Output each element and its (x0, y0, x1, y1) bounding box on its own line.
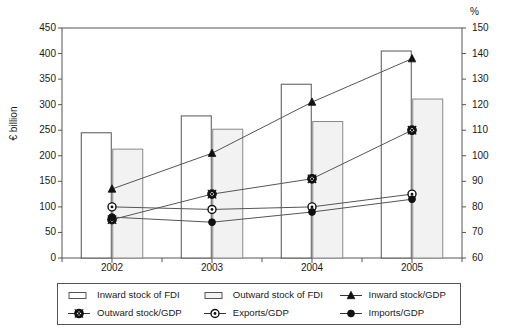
line-open-circle-icon (202, 308, 228, 319)
marker-filled-circle (409, 196, 416, 203)
bar-inward-stock-of-fdi-2003 (181, 116, 211, 258)
legend-label: Inward stock of FDI (97, 290, 180, 300)
line-filled-circle-icon (338, 308, 364, 319)
line-inward-stock-gdp (112, 59, 412, 189)
marker-filled-circle (209, 219, 216, 226)
marker-filled-circle (347, 310, 354, 317)
line-layer (108, 54, 416, 225)
chart-legend: Inward stock of FDIOutward stock of FDII… (57, 283, 461, 325)
legend-item-inward-stock-of-fdi[interactable]: Inward stock of FDI (66, 290, 202, 301)
legend-label: Imports/GDP (369, 308, 424, 318)
legend-item-outward-stock-gdp[interactable]: Outward stock/GDP (66, 308, 202, 319)
legend-item-imports-gdp[interactable]: Imports/GDP (338, 308, 454, 319)
legend-label: Inward stock/GDP (369, 290, 446, 300)
legend-item-outward-stock-of-fdi[interactable]: Outward stock of FDI (202, 290, 338, 301)
line-imports-gdp (112, 199, 412, 222)
bar-layer (81, 51, 443, 258)
line-crossed-circle-icon (66, 308, 92, 319)
legend-label: Outward stock of FDI (233, 290, 323, 300)
bar-inward-stock-of-fdi-2005 (381, 51, 411, 258)
bar-grey-icon (202, 290, 228, 301)
line-exports-gdp (112, 194, 412, 209)
bar-outward-stock-of-fdi-2004 (313, 122, 343, 258)
bar-inward-stock-of-fdi-2002 (81, 133, 111, 258)
marker-filled-circle (109, 214, 116, 221)
line-triangle-icon (338, 290, 364, 301)
marker-filled-circle (309, 209, 316, 216)
legend-label: Outward stock/GDP (97, 308, 182, 318)
legend-label: Exports/GDP (233, 308, 289, 318)
line-outward-stock-gdp (112, 130, 412, 219)
legend-item-inward-stock-gdp[interactable]: Inward stock/GDP (338, 290, 454, 301)
chart-container: % € billion 0501001502002503003504004506… (0, 0, 520, 334)
legend-item-exports-gdp[interactable]: Exports/GDP (202, 308, 338, 319)
bar-white-icon (66, 290, 92, 301)
bar-outward-stock-of-fdi-2002 (113, 149, 143, 258)
bar-outward-stock-of-fdi-2005 (413, 99, 443, 258)
